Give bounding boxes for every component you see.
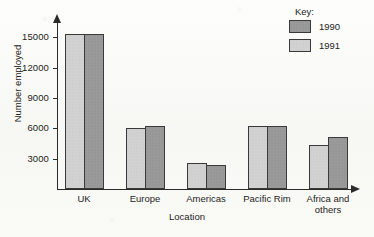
bar-group — [117, 22, 173, 189]
legend-title: Key: — [295, 6, 369, 17]
bar-group — [56, 22, 112, 189]
y-axis-tick-label: 12000 — [1, 62, 49, 73]
bar-1990 — [267, 126, 287, 189]
bar-chart: 3000600090001200015000 Number employed L… — [0, 0, 374, 237]
legend-label: 1990 — [319, 21, 340, 32]
legend-swatch-1991 — [289, 39, 311, 52]
legend-item: 1990 — [289, 20, 369, 33]
y-axis-title: Number employed — [12, 29, 23, 139]
bar-1991 — [248, 126, 268, 189]
legend-swatch-1990 — [289, 20, 311, 33]
y-axis-tick-label: 9000 — [1, 92, 49, 103]
legend-items: 19901991 — [289, 20, 369, 52]
bar-1991 — [309, 145, 329, 189]
legend: Key: 19901991 — [289, 6, 369, 58]
y-axis-tick-label: 6000 — [1, 122, 49, 133]
bar-group — [239, 22, 295, 189]
x-axis-line — [57, 189, 353, 190]
bar-1990 — [206, 165, 226, 189]
bar-group — [178, 22, 234, 189]
bar-1990 — [145, 126, 165, 189]
y-axis-tick-label: 15000 — [1, 31, 49, 42]
legend-item: 1991 — [289, 39, 369, 52]
x-axis-category-label: Africa andothers — [283, 193, 373, 215]
bar-1990 — [328, 137, 348, 189]
bar-1991 — [126, 128, 146, 189]
bar-1991 — [65, 34, 85, 189]
bar-1990 — [84, 34, 104, 189]
bar-1991 — [187, 163, 207, 189]
legend-label: 1991 — [319, 40, 340, 51]
y-axis-tick-label: 3000 — [1, 153, 49, 164]
